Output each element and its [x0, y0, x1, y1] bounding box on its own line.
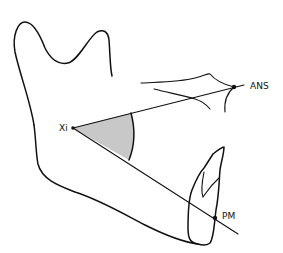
incisor-root [202, 172, 219, 197]
pm-label: PM [222, 211, 235, 221]
palatal-plane-contour [141, 74, 234, 87]
xi-ans-line [73, 85, 244, 128]
ans-point [232, 85, 236, 89]
mandible-diagram: Xi ANS PM [0, 0, 283, 253]
xi-label: Xi [59, 123, 68, 133]
xi-point [71, 126, 75, 130]
symphysis-outline [188, 147, 224, 245]
pm-point [213, 216, 217, 220]
mandible-ramus-outline [14, 22, 112, 125]
premaxilla-contour [225, 87, 234, 112]
ans-label: ANS [250, 81, 269, 91]
